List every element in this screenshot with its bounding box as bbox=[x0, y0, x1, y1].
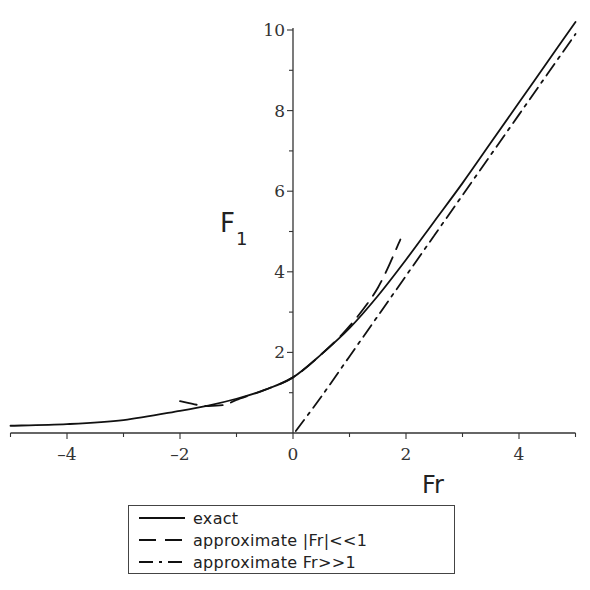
legend: exact approximate |Fr|<<1 approximate Fr… bbox=[128, 505, 455, 574]
legend-label: exact bbox=[193, 509, 238, 528]
x-tick-label: 0 bbox=[288, 444, 299, 464]
y-tick-label: 2 bbox=[274, 342, 285, 362]
legend-label: approximate |Fr|<<1 bbox=[193, 531, 367, 550]
x-tick-label: –2 bbox=[170, 444, 189, 464]
y-tick-label: 8 bbox=[274, 101, 285, 121]
y-tick-label: 4 bbox=[274, 262, 285, 282]
solid-line-swatch-icon bbox=[139, 513, 185, 523]
y-axis-title-subscript: 1 bbox=[236, 228, 247, 249]
x-tick-label: 2 bbox=[401, 444, 412, 464]
y-tick-label: 10 bbox=[263, 20, 285, 40]
legend-label: approximate Fr>>1 bbox=[193, 553, 356, 572]
chart-plot: –4–2024246810 Fr F 1 bbox=[0, 0, 590, 590]
x-axis-title: Fr bbox=[422, 471, 444, 499]
series-line-dashed bbox=[180, 240, 400, 406]
series-line-dashdot bbox=[296, 34, 576, 431]
dashdot-line-swatch-icon bbox=[139, 557, 185, 567]
y-axis-title: F bbox=[220, 208, 235, 238]
dashed-line-swatch-icon bbox=[139, 535, 185, 545]
x-tick-label: –4 bbox=[57, 444, 76, 464]
y-tick-label: 6 bbox=[274, 181, 285, 201]
x-tick-label: 4 bbox=[514, 444, 525, 464]
legend-item-small-fr: approximate |Fr|<<1 bbox=[129, 529, 367, 551]
legend-item-large-fr: approximate Fr>>1 bbox=[129, 551, 356, 573]
axes: –4–2024246810 bbox=[11, 20, 576, 464]
legend-item-exact: exact bbox=[129, 507, 238, 529]
